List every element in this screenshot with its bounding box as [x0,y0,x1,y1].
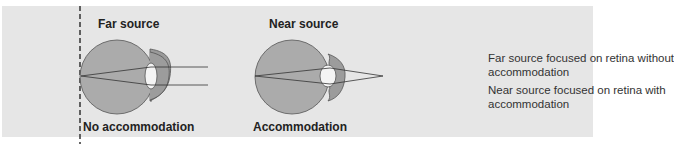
near-source-eye [255,40,383,114]
no-accommodation-caption: No accommodation [83,120,194,134]
far-source-eye [80,40,208,114]
legend-near-source: Near source focused on retina with accom… [488,83,598,111]
accommodation-caption: Accommodation [253,120,347,134]
legend-far-source: Far source focused on retina without acc… [488,51,598,79]
far-source-title: Far source [98,17,159,31]
near-source-title: Near source [269,17,338,31]
